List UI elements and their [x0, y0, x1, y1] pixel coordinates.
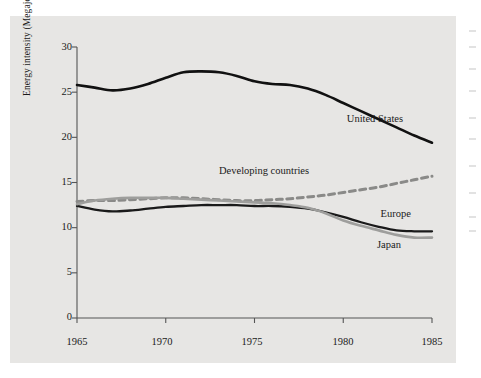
y-axis-ticks: [72, 47, 77, 318]
series-label-united-states: United States: [347, 113, 403, 124]
series-label-japan: Japan: [377, 239, 401, 250]
chart-plot-area: [0, 0, 481, 378]
chart-figure: Energy intensity (Megajoules per dollar)…: [0, 0, 481, 378]
series-label-europe: Europe: [381, 208, 411, 219]
series-label-developing-countries: Developing countries: [219, 165, 309, 176]
x-axis-ticks: [77, 318, 432, 323]
series-line-japan: [77, 198, 432, 238]
series-line-united-states: [77, 71, 432, 142]
series-line-europe: [77, 205, 432, 231]
series-lines: [77, 71, 432, 237]
